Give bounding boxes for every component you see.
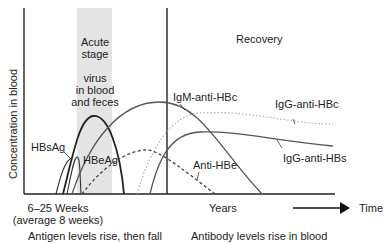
- igg-anti-hbs-label: IgG-anti-HBs: [283, 152, 347, 164]
- virus-line2: in blood: [68, 84, 122, 96]
- virus-line1: virus: [68, 72, 122, 84]
- incubation-line1: 6–25 Weeks: [8, 202, 108, 214]
- hbeag-label: HBeAg: [83, 154, 118, 166]
- acute-line2: stage: [74, 48, 116, 60]
- virus-line3: and feces: [68, 96, 122, 108]
- acute-line1: Acute: [74, 36, 116, 48]
- caption-left: Antigen levels rise, then fall: [28, 230, 162, 242]
- recovery-label: Recovery: [236, 33, 282, 45]
- igm-anti-hbc-label: IgM-anti-HBc: [173, 91, 237, 103]
- anti-hbe-label: Anti-HBe: [193, 159, 237, 171]
- hbsag-leader: [64, 152, 72, 160]
- igg-hbs-leader: [277, 140, 282, 148]
- anti-hbe-leader: [197, 172, 199, 180]
- hbsag-label: HBsAg: [31, 141, 65, 153]
- incubation-label: 6–25 Weeks (average 8 weeks): [8, 202, 108, 226]
- time-arrow-head: [340, 202, 350, 214]
- igg-anti-hbc-label: IgG-anti-HBc: [275, 98, 339, 110]
- acute-stage-label: Acute stage: [74, 36, 116, 60]
- incubation-line2: (average 8 weeks): [8, 214, 108, 226]
- years-label: Years: [209, 202, 237, 214]
- caption-right: Antibody levels rise in blood: [191, 230, 327, 242]
- time-label: Time: [359, 202, 383, 214]
- y-axis-label: Concentration in blood: [7, 49, 19, 199]
- virus-label: virus in blood and feces: [68, 72, 122, 108]
